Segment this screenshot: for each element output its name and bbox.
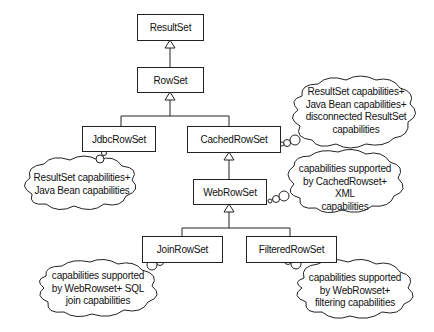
note-line: Java Bean capabilities: [30, 185, 134, 198]
note-line: capabilities: [300, 124, 412, 137]
class-rowset: RowSet: [137, 67, 204, 93]
class-label: CachedRowSet: [200, 134, 267, 145]
web-note-text: capabilities supported by CachedRowset+ …: [292, 163, 398, 213]
class-label: RowSet: [154, 75, 188, 86]
note-line: capabilities: [292, 201, 398, 214]
note-line: capabilities supported: [302, 272, 408, 285]
filtered-note-text: capabilities supported by WebRowset+ fil…: [302, 272, 408, 310]
class-label: ResultSet: [150, 22, 192, 33]
class-jdbcrowset: JdbcRowSet: [82, 126, 156, 152]
note-line: ResultSet capabilities+: [30, 172, 134, 185]
note-line: disconnected ResultSet: [300, 111, 412, 124]
class-resultset: ResultSet: [137, 14, 204, 41]
note-line: by CachedRowset+ XML: [292, 176, 398, 201]
jdbc-note-text: ResultSet capabilities+ Java Bean capabi…: [30, 172, 134, 197]
class-label: FilteredRowSet: [259, 244, 325, 255]
note-line: join capabilities: [44, 295, 152, 308]
class-label: WebRowSet: [203, 187, 257, 198]
class-cachedrowset: CachedRowSet: [187, 126, 281, 153]
cached-note-text: ResultSet capabilities+ Java Bean capabi…: [300, 86, 412, 136]
class-webrowset: WebRowSet: [193, 179, 267, 205]
note-line: by WebRowset+ SQL: [44, 283, 152, 296]
note-line: by WebRowset+: [302, 285, 408, 298]
class-label: JoinRowSet: [157, 244, 208, 255]
note-line: filtering capabilities: [302, 297, 408, 310]
note-line: capabilities supported: [44, 270, 152, 283]
class-label: JdbcRowSet: [92, 134, 146, 145]
note-line: capabilities supported: [292, 163, 398, 176]
class-filteredrowset: FilteredRowSet: [246, 236, 337, 263]
join-note-text: capabilities supported by WebRowset+ SQL…: [44, 270, 152, 308]
note-line: Java Bean capabilities+: [300, 99, 412, 112]
class-joinrowset: JoinRowSet: [142, 236, 223, 263]
note-line: ResultSet capabilities+: [300, 86, 412, 99]
